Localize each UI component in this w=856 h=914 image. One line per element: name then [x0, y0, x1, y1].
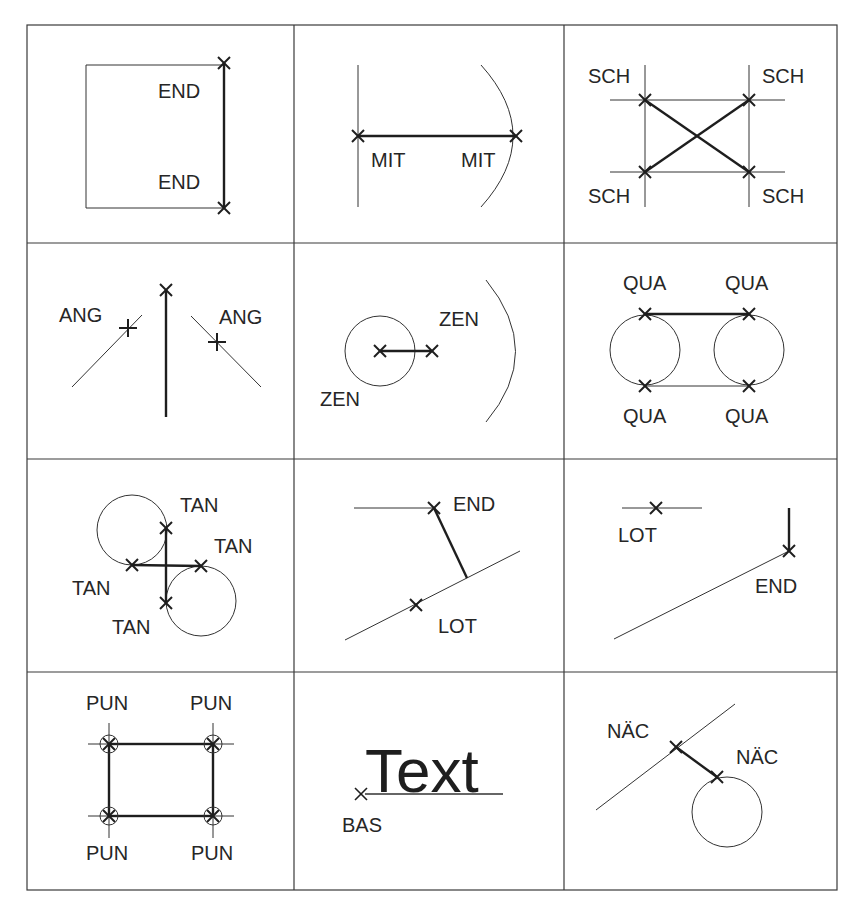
snap-label: TAN: [112, 616, 151, 638]
snap-label: END: [755, 575, 797, 597]
snap-label: SCH: [588, 65, 630, 87]
snap-label: NÄC: [736, 746, 778, 768]
snap-label: ANG: [59, 304, 102, 326]
cell-midpoint: MIT MIT: [352, 65, 522, 207]
snap-label: TAN: [214, 535, 253, 557]
snap-label: NÄC: [607, 720, 649, 742]
snap-label: MIT: [371, 149, 405, 171]
cell-tangent: TAN TAN TAN TAN: [72, 494, 253, 638]
rectangle-outline: [86, 65, 224, 208]
snap-label: PUN: [191, 842, 233, 864]
snap-label: PUN: [86, 842, 128, 864]
snap-label: LOT: [618, 524, 657, 546]
perpendicular-line: [434, 508, 467, 578]
snap-label: LOT: [438, 615, 477, 637]
circle: [714, 315, 784, 385]
snap-label: END: [158, 80, 200, 102]
snap-modes-diagram: END END MIT MIT SCH SCH SCH SCH A: [0, 0, 856, 914]
snap-label: BAS: [342, 814, 382, 836]
snap-label: MIT: [461, 149, 495, 171]
cell-node: PUN PUN PUN PUN: [86, 692, 234, 864]
snap-label: END: [453, 493, 495, 515]
cell-intersection: SCH SCH SCH SCH: [588, 65, 804, 207]
cell-quadrant: QUA QUA QUA QUA: [610, 272, 784, 427]
snap-label: ZEN: [439, 308, 479, 330]
snap-label: TAN: [180, 494, 219, 516]
snap-label: PUN: [86, 692, 128, 714]
snap-x-marker-icon: [410, 599, 422, 611]
snap-label: ANG: [219, 306, 262, 328]
snap-x-marker-icon: [670, 741, 682, 753]
circle: [166, 566, 236, 636]
snap-label: QUA: [725, 272, 769, 294]
snap-label: QUA: [623, 405, 667, 427]
cell-angle: ANG ANG: [59, 284, 262, 417]
circle: [692, 777, 762, 847]
snap-label: END: [158, 171, 200, 193]
snap-label: PUN: [190, 692, 232, 714]
cell-perpendicular-b: LOT END: [614, 502, 797, 639]
circle: [610, 315, 680, 385]
cell-center: ZEN ZEN: [320, 280, 516, 422]
cell-insertion: Text BAS: [342, 736, 503, 836]
nearest-line: [676, 747, 717, 777]
cell-nearest: NÄC NÄC: [596, 704, 778, 847]
cell-perpendicular-a: END LOT: [345, 493, 520, 640]
arc: [486, 280, 516, 422]
snap-label: SCH: [762, 185, 804, 207]
snap-label: SCH: [588, 185, 630, 207]
cell-endpoint: END END: [86, 57, 230, 214]
node-rectangle: [109, 744, 213, 816]
snap-label: QUA: [623, 272, 667, 294]
tangent-line: [132, 565, 201, 566]
sloped-line: [345, 551, 520, 640]
snap-label: SCH: [762, 65, 804, 87]
snap-label: ZEN: [320, 388, 360, 410]
snap-plus-marker-icon: [119, 319, 137, 337]
circle: [97, 495, 167, 565]
snap-label: QUA: [725, 405, 769, 427]
snap-label: TAN: [72, 577, 111, 599]
